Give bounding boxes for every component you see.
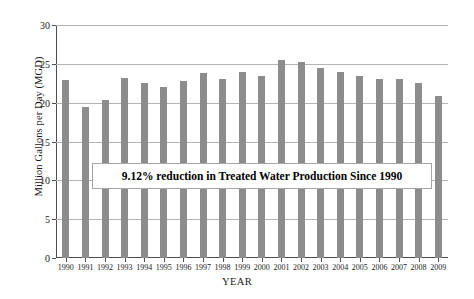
x-tick-mark [379,258,380,262]
x-tick-mark [223,258,224,262]
x-tick-mark [262,258,263,262]
x-tick-label: 2002 [293,263,309,272]
y-tick-label: 30 [40,20,50,31]
x-tick-mark [125,258,126,262]
bar [298,62,305,258]
x-tick-mark [164,258,165,262]
x-tick-mark [321,258,322,262]
bar [278,60,285,258]
x-tick-mark [105,258,106,262]
x-tick-label: 1991 [77,263,93,272]
bar [435,96,442,258]
bar-chart-figure: Million Gallons per Day (MGD) 0510152025… [0,0,474,299]
x-tick-label: 2003 [313,263,329,272]
x-tick-label: 1998 [215,263,231,272]
x-tick-mark [301,258,302,262]
x-tick-label: 1992 [97,263,113,272]
y-tick-label: 10 [40,175,50,186]
x-tick-mark [242,258,243,262]
x-tick-mark [203,258,204,262]
x-axis-title: YEAR [0,276,474,287]
x-tick-mark [340,258,341,262]
x-tick-mark [419,258,420,262]
x-tick-mark [144,258,145,262]
bar [82,107,89,258]
y-tick-label: 5 [45,214,50,225]
x-tick-label: 1999 [234,263,250,272]
x-axis-tick-labels: 1990199119921993199419951996199719981999… [56,258,448,278]
plot-area [56,25,448,258]
x-tick-label: 2001 [273,263,289,272]
y-axis-tick-labels: 051015202530 [14,0,50,299]
x-tick-mark [85,258,86,262]
bar-series [56,25,448,258]
reduction-callout: 9.12% reduction in Treated Water Product… [92,163,432,189]
x-tick-label: 2006 [371,263,387,272]
y-tick-label: 25 [40,58,50,69]
y-tick-label: 15 [40,136,50,147]
x-tick-label: 1993 [117,263,133,272]
x-tick-mark [183,258,184,262]
x-tick-label: 2007 [391,263,407,272]
y-tick-label: 0 [45,253,50,264]
x-tick-label: 2009 [430,263,446,272]
x-tick-label: 2000 [254,263,270,272]
x-tick-label: 1997 [195,263,211,272]
x-tick-mark [66,258,67,262]
y-tick-label: 20 [40,97,50,108]
x-tick-label: 1990 [58,263,74,272]
x-tick-mark [438,258,439,262]
x-tick-label: 2008 [411,263,427,272]
x-tick-label: 2005 [352,263,368,272]
x-tick-mark [281,258,282,262]
x-tick-label: 1996 [175,263,191,272]
x-tick-mark [399,258,400,262]
x-tick-mark [360,258,361,262]
x-tick-label: 1995 [156,263,172,272]
bar [62,80,69,258]
x-tick-label: 2004 [332,263,348,272]
x-tick-label: 1994 [136,263,152,272]
